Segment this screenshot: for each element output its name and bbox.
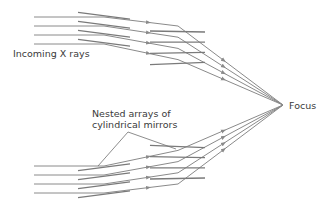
primary-mirror xyxy=(78,21,130,28)
x-ray-optics-diagram xyxy=(0,0,327,210)
callout-lines xyxy=(98,132,176,166)
reflected-ray xyxy=(150,150,178,156)
secondary-mirror xyxy=(150,145,205,147)
focused-ray xyxy=(225,74,283,105)
secondary-mirror xyxy=(150,52,205,53)
primary-mirror xyxy=(78,191,130,198)
primary-mirror xyxy=(78,164,130,171)
reflected-ray xyxy=(150,43,178,48)
focused-ray xyxy=(225,68,283,105)
reflected-ray xyxy=(104,17,150,23)
reflected-ray xyxy=(150,173,178,177)
reflected-ray xyxy=(104,26,150,33)
reflected-ray xyxy=(104,187,150,193)
reflected-ray xyxy=(150,162,178,167)
reflected-ray xyxy=(150,184,178,187)
primary-mirror xyxy=(78,30,130,37)
reflected-ray xyxy=(150,54,178,60)
reflected-ray xyxy=(150,33,178,37)
primary-mirror xyxy=(78,39,130,46)
callout-leader-left xyxy=(98,132,128,166)
focused-ray xyxy=(225,105,283,142)
secondary-mirror xyxy=(150,157,205,158)
reflected-ray xyxy=(150,23,178,26)
incoming-x-rays-label: Incoming X rays xyxy=(13,48,90,59)
callout-leader-right xyxy=(128,132,176,149)
primary-mirror xyxy=(78,182,130,189)
secondary-mirror xyxy=(150,178,205,179)
primary-mirror xyxy=(78,173,130,180)
mirror-group xyxy=(78,12,205,197)
secondary-mirror xyxy=(150,62,205,64)
focused-ray xyxy=(225,105,283,136)
nested-mirrors-label: Nested arrays of cylindrical mirrors xyxy=(92,108,177,130)
primary-mirror xyxy=(78,12,130,19)
nested-mirrors-label-line1: Nested arrays of xyxy=(92,108,177,119)
nested-mirrors-label-line2: cylindrical mirrors xyxy=(92,119,177,130)
secondary-mirror xyxy=(150,31,205,32)
ray-group xyxy=(34,17,283,193)
reflected-ray xyxy=(104,177,150,184)
focus-label: Focus xyxy=(289,100,316,111)
